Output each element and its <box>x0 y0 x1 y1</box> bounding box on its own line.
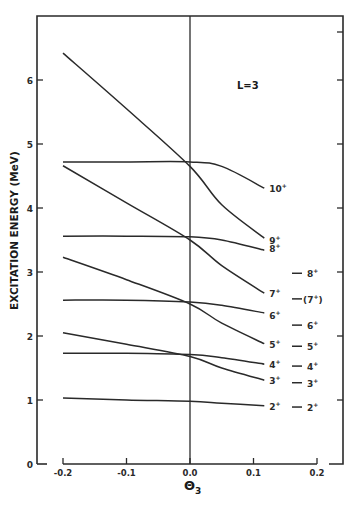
axis-ticks: 0123456-0.2-0.10.00.10.2 <box>27 32 343 478</box>
y-tick-label: 0 <box>27 460 33 470</box>
x-tick-label: -0.1 <box>117 468 136 478</box>
annotation-L: L=3 <box>237 80 259 91</box>
y-tick-label: 3 <box>27 268 33 278</box>
curve-label: 7+ <box>269 287 280 299</box>
curve-label: 8+ <box>269 242 280 254</box>
x-axis-label-sub: 3 <box>195 486 201 496</box>
level-label: 3+ <box>307 377 318 389</box>
x-tick-label: -0.2 <box>54 468 73 478</box>
x-tick-label: 0.2 <box>309 468 324 478</box>
y-tick-label: 4 <box>27 204 33 214</box>
curve-2plus <box>63 398 264 406</box>
curve-7plus <box>63 166 264 293</box>
curve-label: 3+ <box>269 374 280 386</box>
x-tick-label: 0.0 <box>182 468 197 478</box>
experimental-levels: 8+(7+)6+5+4+3+2+ <box>292 267 323 413</box>
level-label: (7+) <box>303 293 323 305</box>
y-axis-label-text: EXCITATION ENERGY (MeV) <box>8 151 20 310</box>
curve-label: 10+ <box>269 182 287 194</box>
curve-9plus <box>63 53 264 238</box>
curve-4plus <box>63 353 264 364</box>
x-axis-label-theta: Θ <box>184 478 195 493</box>
y-tick-label: 2 <box>27 332 33 342</box>
curve-label: 6+ <box>269 309 280 321</box>
curve-label: 2+ <box>269 400 280 412</box>
curve-6plus <box>63 300 264 313</box>
level-label: 2+ <box>307 401 318 413</box>
x-tick-label: 0.1 <box>246 468 261 478</box>
y-tick-label: 1 <box>27 396 33 406</box>
curve-label: 4+ <box>269 358 280 370</box>
level-label: 6+ <box>307 319 318 331</box>
level-label: 5+ <box>307 340 318 352</box>
curve-label: 5+ <box>269 338 280 350</box>
curve-3plus <box>63 333 264 380</box>
y-tick-label: 6 <box>27 76 33 86</box>
curve-8plus <box>63 236 264 250</box>
level-label: 8+ <box>307 267 318 279</box>
x-axis-label: Θ3 <box>184 478 201 496</box>
y-tick-label: 5 <box>27 140 33 150</box>
chart-canvas: 0123456-0.2-0.10.00.10.2 10+9+8+7+6+5+4+… <box>0 0 356 508</box>
level-label: 4+ <box>307 360 318 372</box>
theory-curves: 10+9+8+7+6+5+4+3+2+ <box>63 53 287 412</box>
